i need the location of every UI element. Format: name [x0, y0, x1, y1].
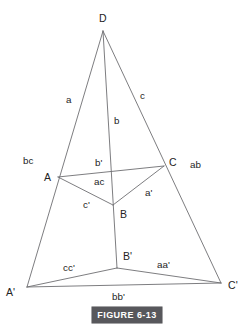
figure-6-13-container: DABCA'B'C' acbbcabb'aca'c'cc'aa'bb' FIGU…: [0, 0, 245, 330]
diagram-edge-B-C: [113, 166, 164, 205]
triangle-diagram-svg: [0, 0, 245, 330]
edge-label-cp: c': [83, 200, 90, 210]
edge-label-bbp: bb': [112, 292, 125, 302]
vertex-label-Ap: A': [6, 287, 15, 297]
vertex-label-B: B: [120, 209, 127, 219]
diagram-edge-D-Cprime: [103, 31, 221, 283]
edge-label-ap: a': [145, 188, 153, 198]
vertex-label-D: D: [99, 13, 107, 23]
figure-caption-box: FIGURE 6-13: [92, 307, 162, 323]
vertex-label-A: A: [44, 172, 51, 182]
edge-label-a: a: [66, 95, 72, 105]
edge-label-ccp: cc': [63, 263, 75, 273]
diagram-edge-D-Bprime: [103, 31, 117, 268]
edge-label-bp: b': [95, 158, 103, 168]
vertex-label-Bp: B': [123, 251, 132, 261]
vertex-label-Cp: C': [228, 280, 238, 290]
edge-label-aap: aa': [157, 260, 170, 270]
edge-label-c: c: [140, 91, 145, 101]
edge-label-b: b: [114, 116, 120, 126]
diagram-edge-Aprime-Cprime: [27, 283, 221, 287]
edge-label-ab: ab: [190, 160, 201, 170]
vertex-label-C: C: [169, 157, 177, 167]
edge-label-ac: ac: [94, 177, 105, 187]
diagram-edge-D-Aprime: [27, 31, 103, 287]
edge-label-bc: bc: [23, 156, 34, 166]
diagram-edge-Bprime-Cprime: [117, 268, 221, 283]
figure-caption-text: FIGURE 6-13: [97, 311, 156, 320]
